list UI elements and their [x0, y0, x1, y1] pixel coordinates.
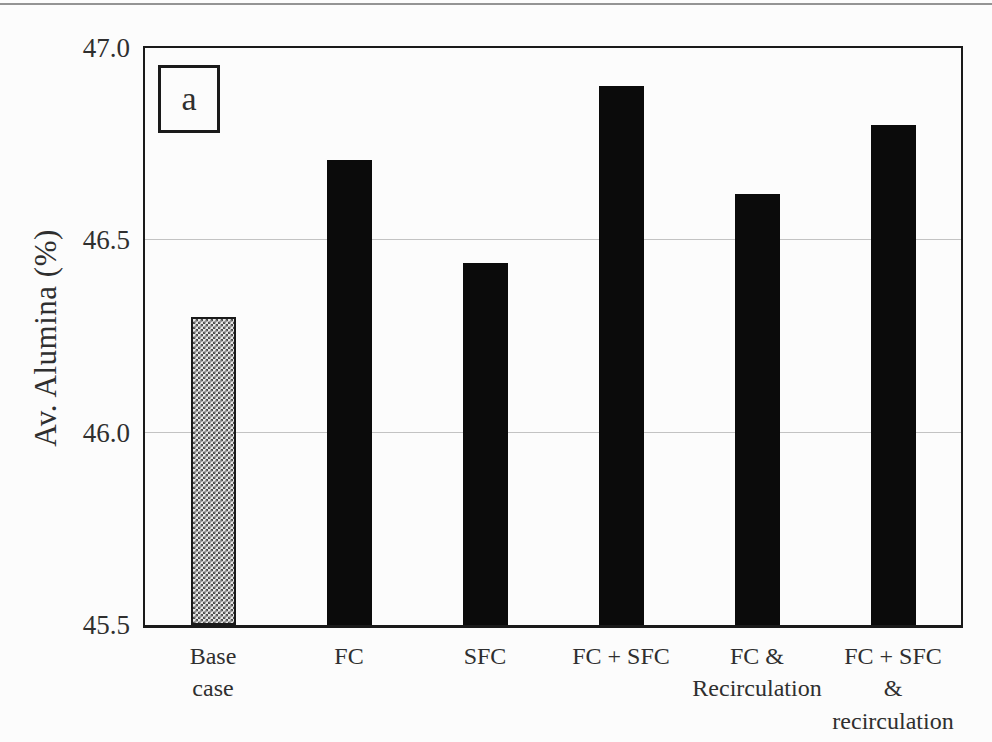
y-axis-title: Av. Alumina (%): [28, 229, 64, 447]
gridline: [145, 239, 961, 240]
x-category-label: Base case: [190, 640, 237, 705]
figure: Av. Alumina (%) 45.546.046.547.0 a Base …: [0, 0, 992, 742]
bar-fc-+-sfc-&-recirculation: [871, 125, 916, 625]
y-tick-label: 45.5: [0, 610, 130, 641]
gridline: [145, 432, 961, 433]
panel-label: a: [181, 82, 196, 116]
y-tick-label: 46.5: [0, 225, 130, 256]
plot-area: a: [143, 46, 963, 628]
x-category-label: FC + SFC & recirculation: [832, 640, 953, 737]
y-tick-label: 47.0: [0, 33, 130, 64]
bar-fc: [327, 160, 372, 625]
bar-sfc: [463, 263, 508, 625]
bar-fc-&-recirculation: [735, 194, 780, 625]
panel-label-box: a: [158, 65, 220, 133]
x-category-label: FC + SFC: [572, 640, 670, 672]
bar-base-case: [191, 317, 236, 625]
y-tick-label: 46.0: [0, 417, 130, 448]
page-rule-divider: [0, 3, 992, 5]
x-category-label: FC & Recirculation: [692, 640, 821, 705]
x-category-label: SFC: [464, 640, 507, 672]
x-category-label: FC: [334, 640, 363, 672]
bar-fc-+-sfc: [599, 86, 644, 625]
